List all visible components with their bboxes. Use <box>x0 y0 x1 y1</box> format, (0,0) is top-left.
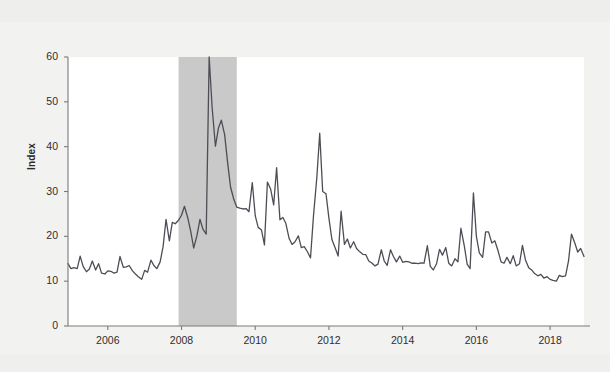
y-axis-ticks <box>64 57 68 326</box>
y-tick-label: 10 <box>34 274 58 286</box>
recession-shading-group <box>179 57 237 326</box>
x-tick-label: 2014 <box>383 334 423 346</box>
chart-figure: Index 0102030405060 20062008201020122014… <box>0 0 610 372</box>
y-tick-label: 30 <box>34 185 58 197</box>
y-tick-label: 50 <box>34 95 58 107</box>
chart-svg <box>0 0 610 372</box>
x-tick-label: 2008 <box>162 334 202 346</box>
x-tick-label: 2016 <box>456 334 496 346</box>
x-tick-label: 2012 <box>309 334 349 346</box>
recession-band <box>179 57 237 326</box>
plot-area: Index 0102030405060 20062008201020122014… <box>0 0 610 372</box>
y-tick-label: 60 <box>34 50 58 62</box>
x-tick-label: 2018 <box>530 334 570 346</box>
y-tick-label: 0 <box>34 319 58 331</box>
x-tick-label: 2010 <box>235 334 275 346</box>
y-tick-label: 40 <box>34 140 58 152</box>
plot-background <box>68 57 584 326</box>
x-axis-ticks <box>108 326 550 330</box>
x-tick-label: 2006 <box>88 334 128 346</box>
y-tick-label: 20 <box>34 229 58 241</box>
